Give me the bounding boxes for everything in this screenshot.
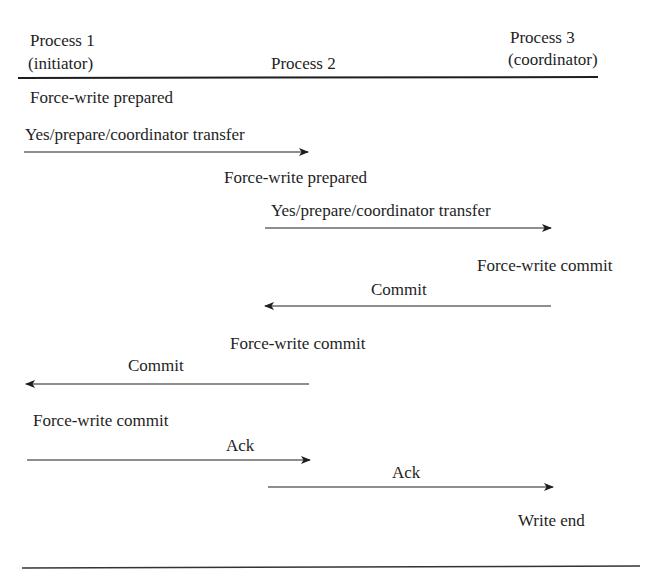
participant-1-name: Process 1 — [30, 31, 95, 51]
participant-1-role: (initiator) — [28, 54, 93, 74]
message-label-1: Yes/prepare/coordinator transfer — [25, 125, 245, 145]
action-p3-write-end: Write end — [518, 511, 585, 531]
action-p2-force-write-prepared: Force-write prepared — [224, 168, 367, 188]
message-label-6: Ack — [392, 463, 420, 483]
message-label-2: Yes/prepare/coordinator transfer — [271, 201, 491, 221]
action-p3-force-write-commit: Force-write commit — [477, 256, 613, 276]
participant-3-name: Process 3 — [510, 28, 575, 48]
header-rule — [18, 77, 598, 78]
message-label-4: Commit — [128, 356, 184, 376]
participant-3-role: (coordinator) — [508, 50, 598, 70]
action-p1-force-write-commit: Force-write commit — [33, 411, 169, 431]
action-p2-force-write-commit: Force-write commit — [230, 334, 366, 354]
participant-2-name: Process 2 — [271, 54, 336, 74]
message-label-3: Commit — [371, 280, 427, 300]
action-p1-force-write-prepared: Force-write prepared — [30, 88, 173, 108]
footer-rule — [22, 566, 640, 568]
message-label-5: Ack — [226, 436, 254, 456]
